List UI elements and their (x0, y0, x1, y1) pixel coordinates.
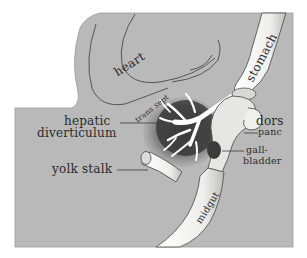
diagram-figure: heart trans sept stomach hepatic diverti… (0, 0, 307, 258)
label-yolk-stalk: yolk stalk (52, 163, 112, 175)
label-gall: gall- (246, 145, 268, 155)
gallbladder (207, 141, 221, 159)
label-bladder: bladder (243, 156, 282, 166)
label-diverticulum: diverticulum (37, 127, 117, 139)
label-panc: panc (258, 127, 282, 137)
